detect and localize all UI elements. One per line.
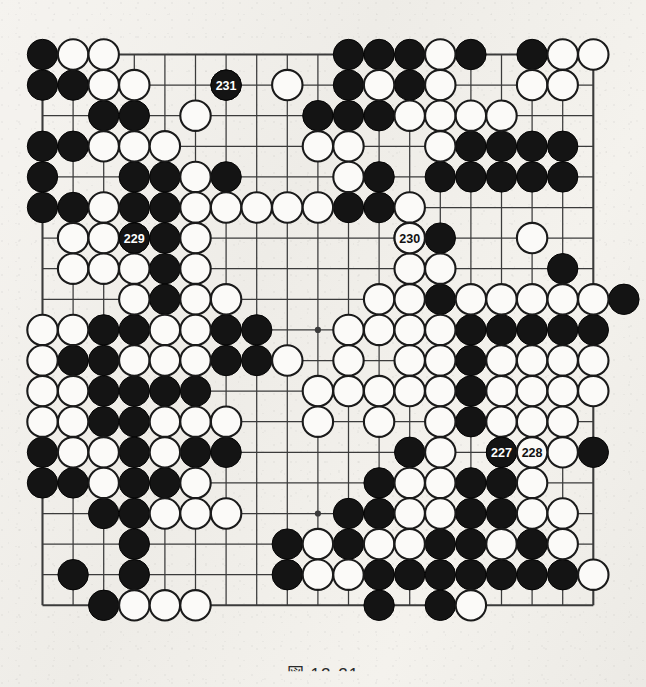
black-stone[interactable]	[456, 407, 486, 437]
white-stone[interactable]	[89, 192, 119, 222]
black-stone[interactable]	[548, 162, 578, 192]
white-stone[interactable]	[58, 223, 88, 253]
white-stone[interactable]	[333, 162, 363, 192]
black-stone[interactable]	[333, 529, 363, 559]
black-stone[interactable]	[89, 101, 119, 131]
white-stone[interactable]	[333, 345, 363, 375]
white-stone[interactable]	[425, 39, 455, 69]
white-stone[interactable]	[425, 468, 455, 498]
white-stone[interactable]	[425, 101, 455, 131]
white-stone[interactable]	[425, 254, 455, 284]
black-stone[interactable]	[272, 529, 302, 559]
white-stone[interactable]	[548, 407, 578, 437]
white-stone[interactable]	[486, 345, 516, 375]
white-stone[interactable]	[211, 498, 241, 528]
black-stone[interactable]	[456, 468, 486, 498]
black-stone[interactable]	[58, 192, 88, 222]
white-stone[interactable]	[548, 376, 578, 406]
black-stone[interactable]	[486, 315, 516, 345]
black-stone[interactable]	[364, 39, 394, 69]
white-stone[interactable]	[150, 345, 180, 375]
black-stone[interactable]	[27, 162, 57, 192]
white-stone[interactable]	[180, 162, 210, 192]
white-stone[interactable]	[89, 70, 119, 100]
black-stone[interactable]	[425, 223, 455, 253]
black-stone[interactable]	[27, 437, 57, 467]
black-stone[interactable]	[456, 498, 486, 528]
white-stone[interactable]	[89, 468, 119, 498]
black-stone[interactable]	[27, 39, 57, 69]
black-stone[interactable]	[456, 39, 486, 69]
white-stone[interactable]	[517, 345, 547, 375]
white-stone[interactable]	[425, 437, 455, 467]
white-stone[interactable]	[180, 254, 210, 284]
black-stone[interactable]	[456, 529, 486, 559]
white-stone[interactable]	[150, 407, 180, 437]
black-stone[interactable]	[58, 560, 88, 590]
white-stone[interactable]	[180, 101, 210, 131]
white-stone[interactable]	[119, 70, 149, 100]
black-stone[interactable]	[242, 345, 272, 375]
black-stone[interactable]	[517, 131, 547, 161]
black-stone[interactable]	[456, 345, 486, 375]
white-stone[interactable]	[303, 407, 333, 437]
black-stone[interactable]	[425, 529, 455, 559]
white-stone[interactable]	[456, 284, 486, 314]
black-stone[interactable]	[119, 162, 149, 192]
black-stone[interactable]	[89, 590, 119, 620]
white-stone[interactable]	[180, 407, 210, 437]
white-stone[interactable]	[150, 590, 180, 620]
white-stone[interactable]	[211, 284, 241, 314]
white-stone[interactable]	[425, 407, 455, 437]
white-stone[interactable]	[548, 529, 578, 559]
white-stone[interactable]	[517, 468, 547, 498]
white-stone[interactable]	[27, 407, 57, 437]
black-stone[interactable]	[211, 437, 241, 467]
black-stone[interactable]	[425, 162, 455, 192]
white-stone[interactable]	[364, 376, 394, 406]
black-stone[interactable]	[119, 376, 149, 406]
black-stone[interactable]	[548, 560, 578, 590]
black-stone[interactable]	[89, 498, 119, 528]
black-stone[interactable]	[456, 315, 486, 345]
white-stone[interactable]	[211, 407, 241, 437]
black-stone[interactable]	[364, 101, 394, 131]
white-stone[interactable]	[180, 315, 210, 345]
white-stone[interactable]	[58, 254, 88, 284]
white-stone[interactable]	[425, 315, 455, 345]
black-stone[interactable]	[211, 345, 241, 375]
black-stone[interactable]	[272, 560, 302, 590]
white-stone[interactable]	[486, 284, 516, 314]
white-stone[interactable]	[242, 192, 272, 222]
black-stone[interactable]	[333, 101, 363, 131]
white-stone[interactable]	[425, 131, 455, 161]
black-stone[interactable]	[119, 315, 149, 345]
white-stone[interactable]	[548, 437, 578, 467]
white-stone[interactable]	[27, 345, 57, 375]
black-stone[interactable]	[58, 345, 88, 375]
white-stone[interactable]	[180, 284, 210, 314]
white-stone[interactable]	[517, 223, 547, 253]
black-stone[interactable]	[150, 223, 180, 253]
black-stone[interactable]	[150, 376, 180, 406]
black-stone[interactable]	[89, 376, 119, 406]
black-stone[interactable]	[395, 39, 425, 69]
white-stone[interactable]	[333, 376, 363, 406]
black-stone[interactable]	[364, 468, 394, 498]
white-stone[interactable]	[364, 529, 394, 559]
black-stone[interactable]	[150, 192, 180, 222]
black-stone[interactable]	[548, 315, 578, 345]
white-stone[interactable]	[58, 376, 88, 406]
white-stone[interactable]	[180, 498, 210, 528]
white-stone[interactable]	[486, 529, 516, 559]
black-stone[interactable]	[517, 315, 547, 345]
white-stone[interactable]	[395, 468, 425, 498]
black-stone[interactable]	[364, 192, 394, 222]
white-stone[interactable]	[517, 376, 547, 406]
white-stone[interactable]	[150, 315, 180, 345]
white-stone[interactable]	[578, 560, 608, 590]
white-stone[interactable]	[150, 437, 180, 467]
black-stone[interactable]	[150, 162, 180, 192]
white-stone[interactable]	[89, 39, 119, 69]
black-stone[interactable]	[89, 315, 119, 345]
